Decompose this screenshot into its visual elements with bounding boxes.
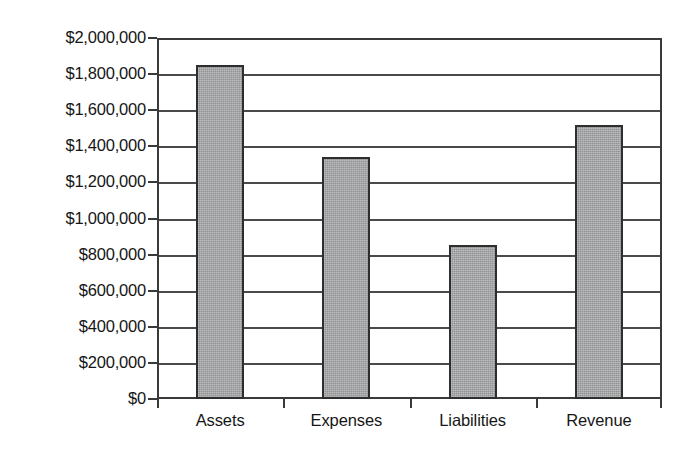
y-axis-tick-label: $1,000,000: [0, 210, 146, 227]
x-axis-tick: [157, 399, 159, 408]
x-axis-category-label: Expenses: [283, 410, 409, 430]
bar-assets[interactable]: [196, 65, 244, 399]
bar-liabilities[interactable]: [449, 245, 497, 399]
x-axis-tick: [536, 399, 538, 408]
x-axis-tick: [660, 399, 662, 408]
y-axis-tick-label: $1,200,000: [0, 173, 146, 190]
y-axis-tick: [148, 145, 157, 147]
bar-series: [157, 38, 662, 399]
y-axis-tick-label: $800,000: [0, 246, 146, 263]
y-axis-tick-label: $600,000: [0, 282, 146, 299]
y-axis-tick: [148, 362, 157, 364]
bar-slot: [283, 38, 409, 399]
x-axis-ticks: [157, 399, 662, 409]
y-axis-tick-label: $1,800,000: [0, 65, 146, 82]
y-axis-tick: [148, 109, 157, 111]
y-axis-tick: [148, 218, 157, 220]
bar-slot: [410, 38, 536, 399]
y-axis-tick: [148, 398, 157, 400]
y-axis-tick-label: $1,600,000: [0, 101, 146, 118]
bar-revenue[interactable]: [575, 125, 623, 399]
x-axis-tick: [410, 399, 412, 408]
y-axis-labels: $2,000,000$1,800,000$1,600,000$1,400,000…: [0, 0, 146, 459]
y-axis-tick: [148, 73, 157, 75]
bar-chart: $2,000,000$1,800,000$1,600,000$1,400,000…: [0, 0, 695, 459]
y-axis-tick: [148, 37, 157, 39]
y-axis-tick: [148, 326, 157, 328]
x-axis-category-label: Liabilities: [410, 410, 536, 430]
y-axis-tick-label: $0: [0, 390, 146, 407]
y-axis-tick: [148, 254, 157, 256]
y-axis-tick-label: $1,400,000: [0, 137, 146, 154]
y-axis-tick-label: $400,000: [0, 318, 146, 335]
bar-slot: [157, 38, 283, 399]
y-axis-tick: [148, 290, 157, 292]
x-axis-tick: [283, 399, 285, 408]
y-axis-tick: [148, 181, 157, 183]
y-axis-tick-label: $200,000: [0, 354, 146, 371]
x-axis-category-label: Revenue: [536, 410, 662, 430]
bar-slot: [536, 38, 662, 399]
y-axis-tick-label: $2,000,000: [0, 29, 146, 46]
x-axis-category-label: Assets: [157, 410, 283, 430]
bar-expenses[interactable]: [322, 157, 370, 399]
x-axis-labels: AssetsExpensesLiabilitiesRevenue: [157, 410, 662, 440]
